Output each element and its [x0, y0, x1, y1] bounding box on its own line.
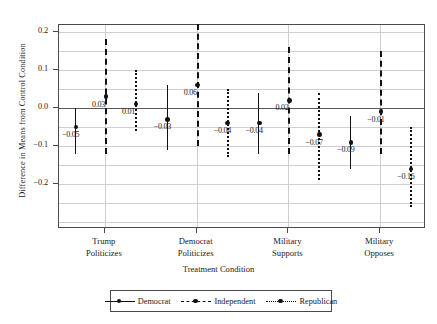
error-bar [135, 70, 137, 131]
y-tick-label: 0.0 [8, 102, 48, 111]
x-tick-label-line: Opposes [319, 248, 437, 260]
legend-marker-dot-icon [193, 299, 198, 304]
x-tick-label: MilitaryOpposes [319, 236, 437, 259]
data-point [349, 140, 354, 145]
data-point [134, 102, 139, 107]
legend-marker-dot-icon [117, 299, 122, 304]
data-point [104, 94, 109, 99]
error-bar [380, 51, 382, 154]
legend-item-democrat[interactable]: Democrat [105, 297, 171, 306]
gridline-horizontal [59, 165, 424, 166]
data-point [225, 121, 230, 126]
plot-area: −0.05−0.03−0.04−0.090.030.060.02−0.010.0… [58, 24, 425, 228]
data-point [165, 117, 170, 122]
y-tick-label: −0.2 [8, 178, 48, 187]
legend-label: Independent [213, 297, 255, 306]
data-point-label: −0.03 [154, 122, 172, 131]
x-tick-mark [379, 228, 380, 233]
legend-item-independent[interactable]: Independent [181, 297, 255, 306]
data-point [287, 98, 292, 103]
data-point [257, 121, 262, 126]
data-point-label: −0.07 [305, 138, 323, 147]
legend-key-independent [181, 298, 211, 305]
gridline-horizontal [59, 203, 424, 204]
data-point [74, 125, 79, 130]
data-point-label: −0.01 [367, 115, 385, 124]
y-tick-label: −0.1 [8, 140, 48, 149]
data-point [379, 109, 384, 114]
x-tick-mark [196, 228, 197, 233]
data-point-label: 0.01 [122, 107, 135, 116]
x-axis-title: Treatment Condition [0, 264, 437, 274]
chart-figure: Difference in Means from Control Conditi… [0, 0, 437, 324]
data-point-label: −0.09 [337, 145, 355, 154]
data-point-label: 0.06 [184, 88, 197, 97]
legend-item-republican[interactable]: Republican [266, 297, 337, 306]
data-point [317, 132, 322, 137]
legend-label: Democrat [137, 297, 171, 306]
legend-key-republican [266, 298, 296, 305]
data-point-label: −0.04 [245, 126, 263, 135]
data-point [195, 83, 200, 88]
gridline-horizontal [59, 184, 424, 185]
gridline-horizontal [59, 89, 424, 90]
legend-key-democrat [105, 298, 135, 305]
data-point [409, 167, 414, 172]
data-point-label: 0.02 [275, 103, 288, 112]
legend-label: Republican [298, 297, 337, 306]
data-point-label: −0.04 [214, 126, 232, 135]
gridline-horizontal [59, 222, 424, 223]
gridline-horizontal [59, 146, 424, 147]
legend-marker-dot-icon [278, 299, 283, 304]
data-point-label: −0.16 [397, 172, 415, 181]
gridline-horizontal [59, 51, 424, 52]
gridline-horizontal [59, 70, 424, 71]
zero-reference-line [59, 108, 424, 109]
y-tick-label: 0.1 [8, 64, 48, 73]
x-tick-mark [104, 228, 105, 233]
gridline-horizontal [59, 127, 424, 128]
data-point-label: −0.05 [62, 130, 80, 139]
x-tick-mark [287, 228, 288, 233]
data-point-label: 0.03 [92, 100, 105, 109]
y-tick-label: 0.2 [8, 26, 48, 35]
x-tick-label-line: Military [319, 236, 437, 248]
chart-legend: DemocratIndependentRepublican [110, 290, 332, 312]
y-axis-title: Difference in Means from Control Conditi… [18, 21, 27, 221]
gridline-horizontal [59, 32, 424, 33]
